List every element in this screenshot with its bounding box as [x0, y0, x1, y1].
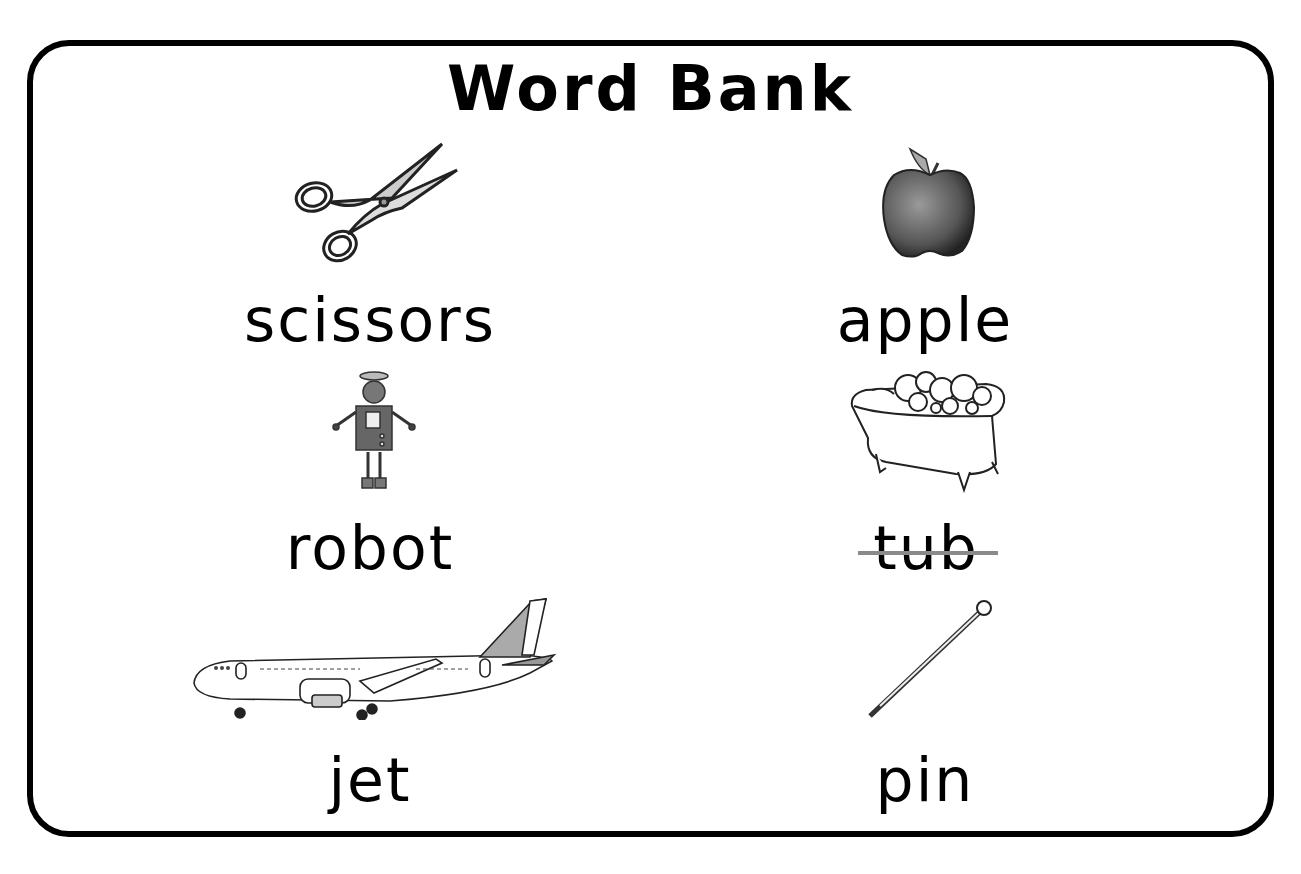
word-scissors: scissors: [170, 290, 570, 350]
pin-icon: [860, 596, 1000, 722]
word-tub: tub: [726, 518, 1126, 578]
scissors-icon: [292, 140, 462, 266]
bathtub-icon: [846, 368, 1011, 493]
word-pin: pin: [725, 750, 1125, 810]
strikethrough-line: [858, 551, 998, 555]
apple-icon: [880, 145, 980, 260]
word-jet: jet: [170, 750, 570, 810]
jet-icon: [190, 595, 560, 720]
word-bank-title: Word Bank: [0, 58, 1301, 120]
robot-icon: [330, 368, 420, 492]
word-apple: apple: [725, 290, 1125, 350]
word-robot: robot: [170, 518, 570, 578]
